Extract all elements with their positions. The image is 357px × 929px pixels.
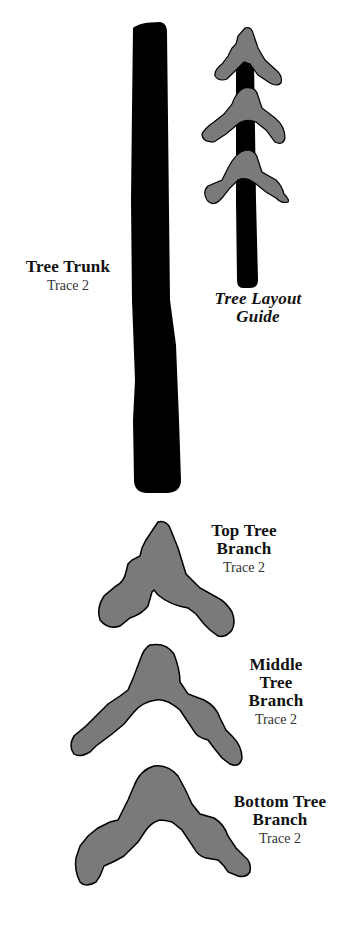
middle-branch-title-line3: Branch <box>226 692 326 710</box>
tree-layout-guide-label: Tree Layout Guide <box>200 290 316 326</box>
top-branch-title-line2: Branch <box>196 540 292 558</box>
top-branch-title-line1: Top Tree <box>196 522 292 540</box>
bottom-branch-title-line2: Branch <box>214 811 346 829</box>
tree-layout-guide-title-line2: Guide <box>200 308 316 326</box>
middle-tree-branch-label: Middle Tree Branch Trace 2 <box>226 656 326 727</box>
middle-branch-subtitle: Trace 2 <box>226 713 326 728</box>
middle-branch-title-line2: Tree <box>226 674 326 692</box>
middle-branch-title-line1: Middle <box>226 656 326 674</box>
tree-trunk-subtitle: Trace 2 <box>12 279 124 294</box>
bottom-branch-title-line1: Bottom Tree <box>214 793 346 811</box>
tree-layout-guide-title-line1: Tree Layout <box>200 290 316 308</box>
tree-trunk-label: Tree Trunk Trace 2 <box>12 258 124 294</box>
top-branch-subtitle: Trace 2 <box>196 561 292 576</box>
tree-template-artwork <box>0 0 357 929</box>
top-tree-branch-label: Top Tree Branch Trace 2 <box>196 522 292 575</box>
bottom-tree-branch-label: Bottom Tree Branch Trace 2 <box>214 793 346 846</box>
bottom-branch-subtitle: Trace 2 <box>214 832 346 847</box>
tree-trunk-title: Tree Trunk <box>12 258 124 276</box>
tree-trunk-shape <box>131 22 181 493</box>
middle-tree-branch-shape <box>71 644 242 765</box>
